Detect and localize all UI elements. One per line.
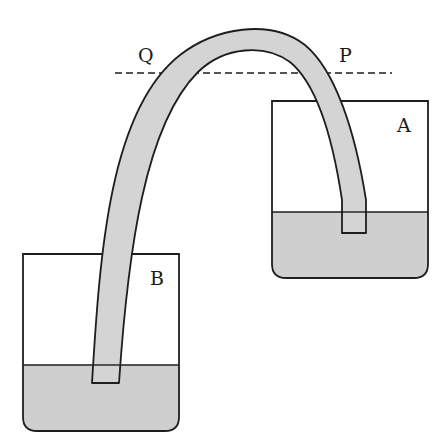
label-q: Q <box>138 44 154 66</box>
siphon-tube <box>92 29 366 383</box>
label-a: A <box>396 114 411 136</box>
siphon-diagram: Q P A B <box>0 0 444 442</box>
label-b: B <box>150 267 164 289</box>
label-p: P <box>339 44 352 66</box>
